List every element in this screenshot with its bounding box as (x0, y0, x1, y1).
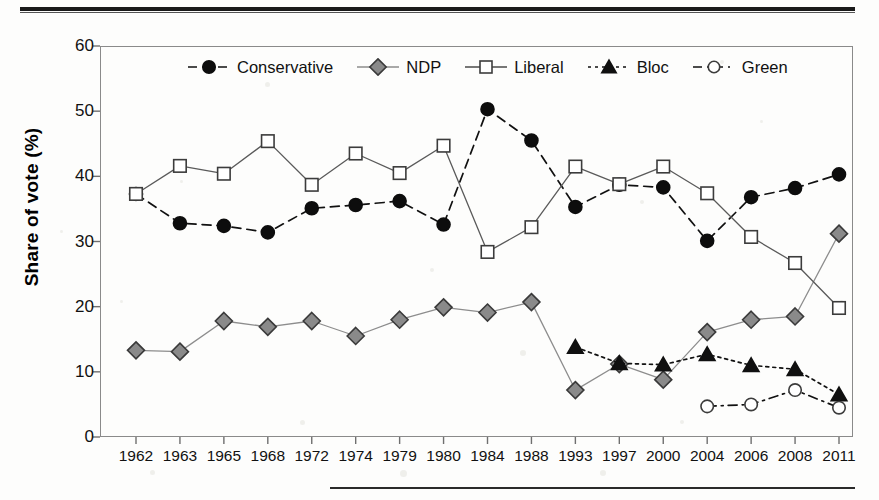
chart-legend: ConservativeNDPLiberalBlocGreen (186, 54, 788, 80)
x-tick-label: 2011 (809, 447, 869, 465)
y-axis-tick-labels: 0102030405060 (40, 0, 94, 500)
legend-marker-filled-triangle-icon (586, 58, 632, 76)
legend-item-label: Conservative (237, 58, 333, 76)
x-axis-tick-labels: 1962196319651968197219741979198019841988… (0, 447, 879, 473)
legend-marker-filled-diamond-icon (355, 58, 401, 76)
legend-item-bloc[interactable]: Bloc (586, 55, 669, 79)
legend-item-ndp[interactable]: NDP (355, 55, 441, 79)
legend-item-liberal[interactable]: Liberal (463, 55, 564, 79)
y-tick-label: 40 (48, 167, 94, 184)
legend-item-label: NDP (406, 58, 441, 76)
y-tick-label: 20 (48, 298, 94, 315)
y-tick-label: 30 (48, 233, 94, 250)
legend-item-conservative[interactable]: Conservative (186, 55, 333, 79)
vote-share-line-chart: 0102030405060 19621963196519681972197419… (0, 0, 879, 500)
y-tick-label: 50 (48, 102, 94, 119)
legend-marker-open-square-icon (463, 58, 509, 76)
y-tick-label: 10 (48, 363, 94, 380)
legend-item-green[interactable]: Green (691, 55, 788, 79)
legend-marker-filled-circle-icon (186, 58, 232, 76)
y-tick-label: 60 (48, 37, 94, 54)
legend-item-label: Bloc (637, 58, 669, 76)
y-tick-label: 0 (48, 428, 94, 445)
legend-item-label: Green (742, 58, 788, 76)
legend-item-label: Liberal (514, 58, 564, 76)
y-axis-title: Share of vote (%) (21, 57, 43, 357)
plot-frame (100, 46, 853, 437)
legend-marker-open-circle-icon (691, 58, 737, 76)
